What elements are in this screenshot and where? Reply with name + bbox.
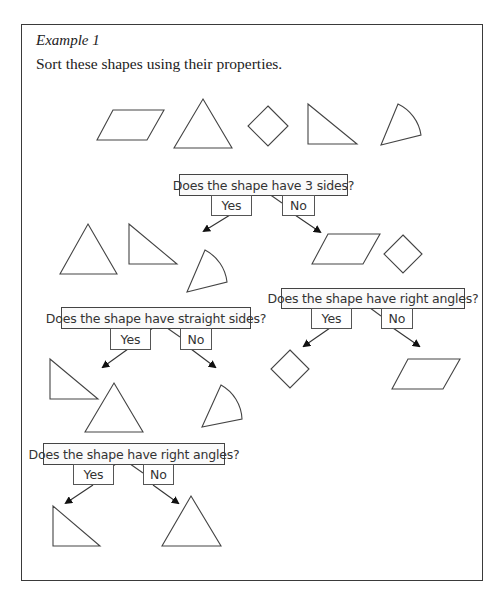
q1-no-arrow bbox=[295, 215, 320, 232]
parallelogram-icon bbox=[97, 110, 164, 140]
no-label: No bbox=[290, 198, 307, 213]
equilateral-triangle-icon bbox=[60, 224, 117, 274]
equilateral-triangle-icon bbox=[162, 496, 221, 546]
q1-no-shapes bbox=[312, 234, 422, 273]
q2-yes-arrow bbox=[304, 328, 330, 346]
no-box-q3: No bbox=[180, 328, 212, 350]
no-box-q2: No bbox=[381, 308, 413, 329]
question-box-q1: Does the shape have 3 sides? bbox=[179, 174, 348, 196]
q3-result-shapes bbox=[50, 359, 242, 432]
no-label: No bbox=[150, 467, 167, 482]
equilateral-triangle-icon bbox=[174, 99, 232, 148]
q3-no-arrow bbox=[191, 349, 215, 367]
right-triangle-icon bbox=[50, 359, 98, 399]
square-diamond-icon bbox=[384, 235, 422, 273]
yes-box-q4: Yes bbox=[73, 464, 114, 485]
question-box-q3: Does the shape have straight sides? bbox=[61, 307, 251, 329]
no-label: No bbox=[389, 311, 406, 326]
yes-label: Yes bbox=[221, 198, 241, 213]
square-diamond-icon bbox=[271, 350, 309, 388]
yes-label: Yes bbox=[120, 332, 140, 347]
question-box-q2: Does the shape have right angles? bbox=[281, 288, 465, 309]
yes-label: Yes bbox=[83, 467, 103, 482]
q2-result-shapes bbox=[271, 350, 460, 389]
square-diamond-icon bbox=[248, 106, 288, 146]
parallelogram-icon bbox=[312, 234, 380, 264]
parallelogram-icon bbox=[392, 359, 460, 389]
yes-box-q3: Yes bbox=[110, 328, 151, 350]
no-box-q4: No bbox=[143, 464, 174, 485]
equilateral-triangle-icon bbox=[85, 383, 143, 432]
q4-yes-arrow bbox=[66, 485, 93, 503]
question-text: Does the shape have straight sides? bbox=[46, 311, 266, 326]
sector-icon bbox=[187, 250, 227, 292]
right-triangle-icon bbox=[53, 506, 100, 546]
q1-yes-arrow bbox=[204, 215, 230, 231]
sector-icon bbox=[381, 104, 421, 145]
yes-label: Yes bbox=[321, 311, 341, 326]
yes-box-q2: Yes bbox=[311, 308, 352, 329]
question-text: Does the shape have right angles? bbox=[29, 447, 240, 462]
question-text: Does the shape have 3 sides? bbox=[173, 178, 354, 193]
no-box-q1: No bbox=[282, 195, 315, 216]
question-text: Does the shape have right angles? bbox=[268, 291, 479, 306]
q4-result-shapes bbox=[53, 496, 221, 546]
q3-yes-arrow bbox=[103, 349, 128, 367]
question-box-q4: Does the shape have right angles? bbox=[43, 443, 225, 465]
right-triangle-icon bbox=[129, 224, 177, 264]
q2-no-arrow bbox=[393, 328, 419, 346]
right-triangle-icon bbox=[308, 104, 357, 144]
no-label: No bbox=[188, 332, 205, 347]
q4-no-arrow bbox=[153, 485, 178, 503]
q1-yes-shapes bbox=[60, 224, 227, 292]
yes-box-q1: Yes bbox=[211, 195, 252, 216]
initial-shapes bbox=[97, 99, 421, 148]
sector-icon bbox=[202, 385, 242, 427]
